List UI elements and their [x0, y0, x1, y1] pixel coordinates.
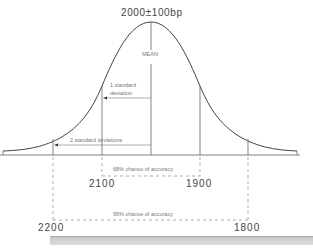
- diagram-title: 2000±100bp: [121, 8, 183, 18]
- bottom-gray-bar: [50, 236, 313, 245]
- mean-label: MEAN: [142, 52, 158, 58]
- tick-label-1900: 1900: [186, 179, 212, 189]
- tick-label-1800: 1800: [234, 223, 260, 233]
- sd2-label: 2 standard deviations: [70, 138, 122, 144]
- sd2-arrowhead-icon: [54, 144, 58, 147]
- range68-label: 68% chance of accuracy: [113, 167, 173, 173]
- range95-label: 95% chance of accuracy: [113, 212, 173, 218]
- tick-label-2200: 2200: [38, 223, 64, 233]
- sd1-label-line1: 1 standard: [110, 83, 136, 89]
- bell-curve: [3, 22, 297, 151]
- tick-label-2100: 2100: [89, 179, 115, 189]
- sd1-label-line2: deviation: [110, 91, 132, 97]
- sd1-arrowhead-icon: [103, 97, 107, 100]
